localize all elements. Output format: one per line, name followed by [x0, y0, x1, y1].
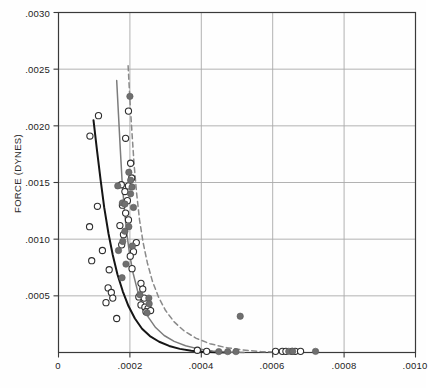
marker-open-circle	[94, 203, 100, 209]
marker-open-circle	[99, 247, 105, 253]
marker-open-circle	[86, 224, 92, 230]
marker-open-circle	[204, 348, 210, 354]
marker-open-circle	[106, 267, 112, 273]
marker-open-circle	[272, 348, 278, 354]
marker-filled-circle	[129, 243, 135, 249]
marker-filled-circle	[122, 201, 128, 207]
marker-open-circle	[297, 348, 303, 354]
marker-filled-circle	[137, 292, 143, 298]
marker-filled-circle	[115, 247, 121, 253]
curve-lines	[93, 66, 301, 353]
marker-filled-circle	[123, 261, 129, 267]
marker-filled-circle	[225, 348, 231, 354]
marker-open-circle	[117, 222, 123, 228]
marker-filled-circle	[144, 310, 150, 316]
marker-filled-circle	[120, 238, 126, 244]
marker-open-circle	[122, 188, 128, 194]
data-markers	[86, 93, 318, 355]
marker-open-circle	[123, 135, 129, 141]
marker-filled-circle	[129, 184, 135, 190]
marker-open-circle	[123, 210, 129, 216]
marker-open-circle	[127, 253, 133, 259]
marker-filled-circle	[115, 183, 121, 189]
marker-filled-circle	[146, 301, 152, 307]
marker-filled-circle	[122, 228, 128, 234]
marker-open-circle	[114, 315, 120, 321]
marker-filled-circle	[312, 348, 318, 354]
marker-open-circle	[125, 217, 131, 223]
marker-open-circle	[125, 108, 131, 114]
marker-open-circle	[95, 113, 101, 119]
marker-filled-circle	[127, 93, 133, 99]
marker-filled-circle	[216, 348, 222, 354]
marker-open-circle	[110, 295, 116, 301]
marker-open-circle	[129, 266, 135, 272]
marker-open-circle	[87, 133, 93, 139]
marker-filled-circle	[130, 204, 136, 210]
curve-curve-middle-solid	[117, 81, 244, 353]
marker-filled-circle	[127, 191, 133, 197]
marker-open-circle	[89, 258, 95, 264]
marker-open-circle	[103, 300, 109, 306]
curve-curve-right-dashed	[128, 66, 301, 353]
marker-open-circle	[194, 347, 200, 353]
marker-open-circle	[128, 160, 134, 166]
marker-filled-circle	[289, 348, 295, 354]
marker-filled-circle	[127, 177, 133, 183]
marker-filled-circle	[126, 169, 132, 175]
marker-filled-circle	[233, 348, 239, 354]
marker-open-circle	[140, 286, 146, 292]
marker-filled-circle	[119, 275, 125, 281]
marker-filled-circle	[237, 313, 243, 319]
